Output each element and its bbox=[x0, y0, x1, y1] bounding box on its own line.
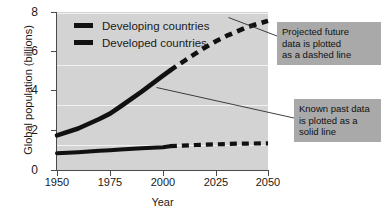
leader-line-known bbox=[157, 88, 295, 119]
developing-countries-solid bbox=[57, 61, 173, 135]
legend-item-developing: Developing countries bbox=[74, 18, 209, 33]
annotation-known-line-2: is plotted as a bbox=[299, 115, 376, 127]
legend-swatch-icon-developed bbox=[74, 40, 93, 45]
developed-dashed bbox=[170, 143, 268, 146]
legend-item-developed: Developed countries bbox=[74, 35, 209, 50]
legend-label-developed: Developed countries bbox=[102, 37, 207, 49]
annotation-known-past: Known past data is plotted as a solid li… bbox=[294, 99, 381, 142]
legend-swatch-icon-developing bbox=[74, 23, 93, 28]
annotation-projected-future: Projected future data is plotted as a da… bbox=[277, 22, 381, 65]
annotation-projected-line-3: as a dashed line bbox=[282, 49, 376, 61]
developing-solid bbox=[57, 71, 170, 136]
population-growth-chart: 8 6 4 2 0 1950 1975 2000 2025 2050 Year … bbox=[0, 0, 383, 216]
annotation-known-line-3: solid line bbox=[299, 126, 376, 138]
legend: Developing countries Developed countries bbox=[74, 18, 209, 52]
annotation-known-line-1: Known past data bbox=[299, 103, 376, 115]
annotation-projected-line-2: data is plotted bbox=[282, 38, 376, 50]
developed-solid bbox=[57, 146, 170, 153]
annotation-projected-line-1: Projected future bbox=[282, 26, 376, 38]
legend-label-developing: Developing countries bbox=[102, 20, 209, 32]
leader-line-projected bbox=[229, 18, 278, 37]
